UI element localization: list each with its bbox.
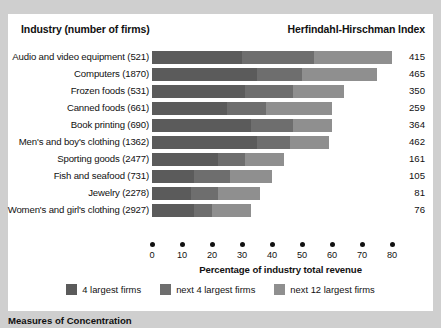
legend-swatch	[66, 284, 77, 295]
tick-marker-dot	[360, 242, 365, 247]
industry-label: Computers (1870)	[74, 68, 149, 79]
hhi-value: 350	[391, 85, 425, 96]
bar-segment	[152, 136, 257, 149]
tick-label: 10	[170, 250, 194, 260]
bar-segment	[152, 85, 245, 98]
industry-label: Audio and video equipment (521)	[12, 51, 149, 62]
tick-label: 80	[380, 250, 404, 260]
hhi-value: 465	[391, 68, 425, 79]
legend-label: next 4 largest firms	[176, 284, 255, 295]
legend-item: 4 largest firms	[66, 284, 141, 295]
bar-segment	[314, 51, 392, 64]
legend-label: next 12 largest firms	[290, 284, 374, 295]
chart-row: Audio and video equipment (521)415	[8, 50, 433, 66]
stacked-bar	[152, 187, 260, 200]
x-axis-title: Percentage of industry total revenue	[8, 264, 433, 275]
chart-legend: 4 largest firmsnext 4 largest firmsnext …	[8, 284, 433, 295]
industry-label: Book printing (690)	[71, 119, 149, 130]
industry-label: Jewelry (2278)	[88, 187, 149, 198]
stacked-bar	[152, 204, 251, 217]
stacked-bar	[152, 170, 272, 183]
bar-segment	[152, 68, 257, 81]
stacked-bar	[152, 68, 377, 81]
tick-label: 50	[290, 250, 314, 260]
hhi-value: 364	[391, 119, 425, 130]
chart-row: Fish and seafood (731)105	[8, 169, 433, 185]
tick-marker-dot	[150, 242, 155, 247]
tick-marker-dot	[330, 242, 335, 247]
tick-label: 20	[200, 250, 224, 260]
bar-segment	[152, 51, 242, 64]
chart-row: Men's and boy's clothing (1362)462	[8, 135, 433, 151]
hhi-value: 259	[391, 102, 425, 113]
tick-marker-dot	[300, 242, 305, 247]
tick-label: 0	[140, 250, 164, 260]
stacked-bar	[152, 51, 392, 64]
chart-figure: Industry (number of firms) Herfindahl-Hi…	[8, 14, 433, 311]
legend-item: next 12 largest firms	[274, 284, 374, 295]
bar-segment	[242, 51, 314, 64]
bar-segment	[266, 102, 332, 115]
chart-row: Frozen foods (531)350	[8, 84, 433, 100]
chart-row: Canned foods (661)259	[8, 101, 433, 117]
tick-marker-dot	[240, 242, 245, 247]
bar-segment	[152, 204, 194, 217]
chart-row: Computers (1870)465	[8, 67, 433, 83]
industry-label: Women's and girl's clothing (2927)	[8, 204, 149, 215]
chart-row: Women's and girl's clothing (2927)76	[8, 203, 433, 219]
tick-marker-dot	[270, 242, 275, 247]
industry-label: Canned foods (661)	[67, 102, 149, 113]
bar-segment	[293, 85, 344, 98]
tick-label: 40	[260, 250, 284, 260]
bar-segment	[194, 170, 230, 183]
bar-segment	[302, 68, 377, 81]
tick-label: 30	[230, 250, 254, 260]
tick-label: 70	[350, 250, 374, 260]
bar-segment	[152, 102, 227, 115]
bar-segment	[257, 136, 290, 149]
bar-segment	[152, 153, 218, 166]
bar-segment	[191, 187, 218, 200]
bar-segment	[257, 68, 302, 81]
bar-segment	[251, 119, 293, 132]
industry-label: Fish and seafood (731)	[54, 170, 149, 181]
plot-area: Audio and video equipment (521)415Comput…	[8, 14, 433, 311]
bar-segment	[152, 170, 194, 183]
industry-label: Frozen foods (531)	[71, 85, 149, 96]
legend-swatch	[274, 284, 285, 295]
tick-marker-dot	[180, 242, 185, 247]
hhi-value: 415	[391, 51, 425, 62]
hhi-value: 76	[391, 204, 425, 215]
bar-segment	[194, 204, 212, 217]
bar-segment	[152, 187, 191, 200]
chart-row: Jewelry (2278)81	[8, 186, 433, 202]
chart-row: Sporting goods (2477)161	[8, 152, 433, 168]
stacked-bar	[152, 153, 284, 166]
tick-marker-dot	[390, 242, 395, 247]
hhi-value: 161	[391, 153, 425, 164]
tick-label: 60	[320, 250, 344, 260]
bar-segment	[290, 136, 329, 149]
hhi-value: 81	[391, 187, 425, 198]
legend-swatch	[160, 284, 171, 295]
bar-segment	[293, 119, 332, 132]
figure-caption: Measures of Concentration	[8, 315, 132, 326]
hhi-value: 462	[391, 136, 425, 147]
bar-segment	[245, 85, 293, 98]
stacked-bar	[152, 136, 329, 149]
bar-segment	[218, 153, 245, 166]
bar-segment	[245, 153, 284, 166]
bar-segment	[152, 119, 251, 132]
bar-segment	[218, 187, 260, 200]
hhi-value: 105	[391, 170, 425, 181]
industry-label: Men's and boy's clothing (1362)	[19, 136, 149, 147]
stacked-bar	[152, 102, 332, 115]
stacked-bar	[152, 119, 332, 132]
chart-row: Book printing (690)364	[8, 118, 433, 134]
bar-segment	[212, 204, 251, 217]
legend-label: 4 largest firms	[82, 284, 141, 295]
bar-segment	[230, 170, 272, 183]
industry-label: Sporting goods (2477)	[57, 153, 149, 164]
legend-item: next 4 largest firms	[160, 284, 255, 295]
stacked-bar	[152, 85, 344, 98]
